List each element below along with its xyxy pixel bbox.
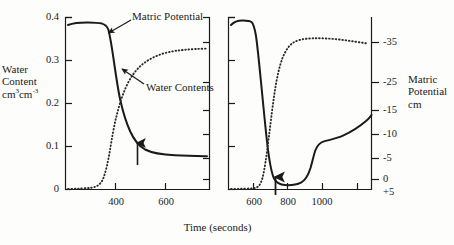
right-panel-y-tick-0: -35 bbox=[383, 36, 397, 48]
right-panel-series-water-contents bbox=[231, 38, 368, 189]
right-axis-title-line1: Matric bbox=[408, 73, 447, 85]
left-axis-title-units: cm3cm-3 bbox=[2, 88, 38, 100]
left-axis-units-cm-1: cm bbox=[2, 88, 15, 100]
right-panel-y-ticks bbox=[372, 43, 379, 180]
right-panel-y-tick-1: -25 bbox=[383, 76, 397, 88]
left-axis-title: Water Content cm3cm-3 bbox=[2, 63, 38, 100]
left-panel-y-tick-3: 0.1 bbox=[14, 140, 59, 152]
left-panel-x-tick-1: 600 bbox=[146, 196, 186, 208]
left-panel-y-tick-0: 0.4 bbox=[14, 11, 59, 23]
right-panel-axes bbox=[228, 17, 379, 190]
right-axis-title: Matric Potential cm bbox=[408, 73, 447, 110]
left-axis-title-line1: Water bbox=[2, 63, 38, 75]
x-axis-title: Time (seconds) bbox=[160, 221, 275, 233]
figure-container: 0.4 0.3 0.2 0.1 0 Water Content cm3cm-3 … bbox=[0, 0, 454, 245]
right-panel-y-tick-3: -10 bbox=[383, 128, 397, 140]
left-panel-series-water-contents bbox=[68, 49, 207, 189]
right-axis-title-line2: Potential bbox=[408, 85, 447, 97]
right-panel-series-matric-potential bbox=[231, 20, 372, 185]
left-axis-units-cm-2: cm bbox=[19, 88, 32, 100]
left-axis-title-line2: Content bbox=[2, 75, 38, 87]
right-panel-y-tick-5: 0 bbox=[383, 173, 388, 185]
matric-potential-leader-arrow bbox=[109, 20, 132, 33]
left-axis-units-exp-2: -3 bbox=[32, 87, 38, 95]
right-panel-y-tick-4: -5 bbox=[383, 152, 392, 164]
left-panel-x-tick-0: 400 bbox=[96, 196, 136, 208]
left-panel-y-tick-4: 0 bbox=[14, 183, 59, 195]
right-panel-x-tick-2: 1000 bbox=[302, 196, 342, 208]
right-axis-title-units: cm bbox=[408, 98, 447, 110]
right-panel-y-tick-2: -15 bbox=[383, 104, 397, 116]
right-panel-y-tick-6: +5 bbox=[383, 186, 394, 198]
annotation-matric-potential: Matric Potential bbox=[132, 10, 203, 22]
water-contents-leader-arrow bbox=[122, 69, 144, 84]
annotation-water-contents: Water Contents bbox=[146, 81, 214, 93]
